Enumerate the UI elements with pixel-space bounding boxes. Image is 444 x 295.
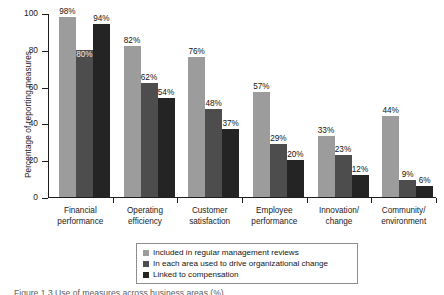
y-axis-tick: 0 — [42, 198, 48, 199]
x-axis-tick — [242, 198, 243, 203]
legend-swatch-icon — [143, 250, 149, 256]
x-category-label-line: Financial — [48, 206, 113, 217]
bar-value-label: 94% — [93, 14, 109, 23]
bar-value-label: 54% — [158, 88, 174, 97]
legend-item: In each area used to drive organizationa… — [143, 258, 352, 269]
bar-group: 57%29%20% — [253, 14, 304, 197]
bar: 94% — [93, 24, 110, 197]
bar: 76% — [188, 57, 205, 197]
legend-label: Linked to compensation — [153, 270, 239, 279]
bar: 9% — [399, 180, 416, 197]
bar: 54% — [158, 98, 175, 197]
y-axis-tick: 40 — [42, 124, 48, 125]
bar-value-label: 23% — [335, 145, 351, 154]
bar: 37% — [222, 129, 239, 197]
bar-value-label: 57% — [253, 82, 269, 91]
x-category-label-line: environment — [371, 217, 436, 228]
x-category-label-line: Innovation/ — [307, 206, 372, 217]
x-category-label: Operatingefficiency — [113, 206, 178, 227]
y-axis-tick-label: 80 — [29, 45, 38, 55]
figure-container: Percentage of reporting measures 0204060… — [0, 0, 444, 295]
bar-value-label: 9% — [402, 170, 414, 179]
legend-item: Included in regular management reviews — [143, 247, 352, 258]
x-category-label-line: Customer — [177, 206, 242, 217]
legend-swatch-icon — [143, 261, 149, 267]
bar-value-label: 80% — [76, 50, 92, 59]
x-category-label-line: Operating — [113, 206, 178, 217]
x-axis-tick — [113, 198, 114, 203]
bar-value-label: 6% — [419, 176, 431, 185]
bar: 57% — [253, 92, 270, 197]
bar-value-label: 98% — [59, 7, 75, 16]
bar-value-label: 33% — [318, 126, 334, 135]
x-axis-tick — [177, 198, 178, 203]
bar-group: 44%9%6% — [382, 14, 433, 197]
bar: 80% — [76, 50, 93, 197]
legend-label: Included in regular management reviews — [153, 248, 299, 257]
bar-value-label: 62% — [141, 73, 157, 82]
legend-item: Linked to compensation — [143, 269, 352, 280]
x-axis-tick — [436, 198, 437, 203]
y-axis-tick: 60 — [42, 88, 48, 89]
bar-group: 98%80%94% — [59, 14, 110, 197]
x-category-label-line: performance — [242, 217, 307, 228]
figure-caption: Figure 1.3 Use of measures across busine… — [14, 288, 430, 295]
bar-group: 33%23%12% — [318, 14, 369, 197]
x-category-label-line: change — [307, 217, 372, 228]
y-axis-tick-label: 100 — [24, 8, 38, 18]
bar: 23% — [335, 155, 352, 197]
bar-value-label: 82% — [124, 36, 140, 45]
x-category-label-line: satisfaction — [177, 217, 242, 228]
bar: 12% — [352, 175, 369, 197]
y-axis-tick-label: 0 — [33, 192, 38, 202]
x-category-label: Customersatisfaction — [177, 206, 242, 227]
x-category-label: Employeeperformance — [242, 206, 307, 227]
bar-group: 82%62%54% — [124, 14, 175, 197]
y-axis-tick: 100 — [42, 14, 48, 15]
plot-area: 020406080100 98%80%94%82%62%54%76%48%37%… — [48, 14, 436, 198]
x-axis-tick — [371, 198, 372, 203]
bar-value-label: 44% — [382, 106, 398, 115]
y-axis-tick-label: 60 — [29, 82, 38, 92]
bar: 62% — [141, 83, 158, 197]
x-category-label-line: efficiency — [113, 217, 178, 228]
bar-value-label: 29% — [270, 134, 286, 143]
chart-legend: Included in regular management reviews I… — [136, 243, 358, 284]
bar: 82% — [124, 46, 141, 197]
x-category-label-line: Employee — [242, 206, 307, 217]
y-axis-line — [48, 14, 49, 198]
x-category-label: Community/environment — [371, 206, 436, 227]
bar: 44% — [382, 116, 399, 197]
bar-value-label: 12% — [352, 165, 368, 174]
bar: 33% — [318, 136, 335, 197]
bar: 20% — [287, 160, 304, 197]
y-axis-tick: 80 — [42, 51, 48, 52]
bar-value-label: 76% — [188, 47, 204, 56]
bar-value-label: 48% — [205, 99, 221, 108]
x-category-label: Innovation/change — [307, 206, 372, 227]
x-category-label: Financialperformance — [48, 206, 113, 227]
bar-value-label: 20% — [287, 150, 303, 159]
bar: 29% — [270, 144, 287, 197]
bar: 48% — [205, 109, 222, 197]
bar: 6% — [416, 186, 433, 197]
legend-label: In each area used to drive organizationa… — [153, 259, 328, 268]
y-axis-tick: 20 — [42, 161, 48, 162]
bar: 98% — [59, 17, 76, 197]
legend-swatch-icon — [143, 272, 149, 278]
y-axis-tick-label: 40 — [29, 118, 38, 128]
bar-group: 76%48%37% — [188, 14, 239, 197]
x-category-label-line: Community/ — [371, 206, 436, 217]
y-axis-tick-label: 20 — [29, 155, 38, 165]
x-category-label-line: performance — [48, 217, 113, 228]
bar-value-label: 37% — [222, 119, 238, 128]
x-axis-tick — [307, 198, 308, 203]
